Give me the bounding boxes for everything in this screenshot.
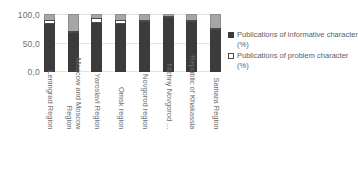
x-label-slot: Nizhny Novgorod ... xyxy=(163,74,174,173)
stacked-bar-chart: 100,0 50,0 0,0 Leningrad RegionMoscow an… xyxy=(0,0,358,175)
bar-segment xyxy=(68,14,79,31)
x-label-slot: Omsk region xyxy=(115,74,126,173)
legend-item: Publications of informative character (%… xyxy=(228,30,358,49)
x-label-slot: Novgorod region xyxy=(139,74,150,173)
legend-item-label: Publications of problem character (%) xyxy=(237,51,358,70)
x-axis-labels: Leningrad RegionMoscow and Moscow Region… xyxy=(44,74,221,173)
y-tick-label: 50,0 xyxy=(2,40,40,49)
bar-segment xyxy=(210,14,221,28)
y-tick-label: 100,0 xyxy=(2,11,40,20)
legend-item-label: Publications of informative character (%… xyxy=(237,30,358,49)
x-label-slot: Samara Region xyxy=(210,74,221,173)
dark-square-swatch xyxy=(228,32,234,38)
x-label-slot: Moscow and Moscow Region xyxy=(68,74,79,173)
x-axis-tick-label: Samara Region xyxy=(211,32,220,129)
y-axis: 100,0 50,0 0,0 xyxy=(0,0,40,175)
legend-item: Publications of problem character (%) xyxy=(228,51,358,70)
white-square-swatch xyxy=(228,53,234,59)
chart-legend: Publications of informative character (%… xyxy=(228,30,358,72)
x-label-slot: Leningrad Region xyxy=(44,74,55,173)
x-label-slot: Republic of Khakassia xyxy=(186,74,197,173)
x-label-slot: Yaroslavl Region xyxy=(91,74,102,173)
